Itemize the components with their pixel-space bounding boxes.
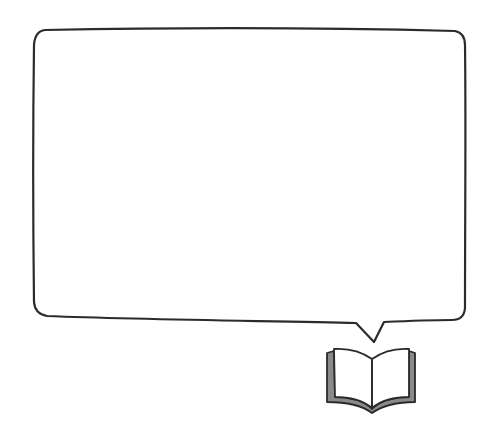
open-book-icon [327, 349, 415, 413]
speech-bubble-text [50, 45, 450, 305]
